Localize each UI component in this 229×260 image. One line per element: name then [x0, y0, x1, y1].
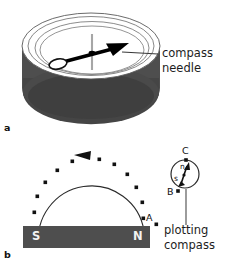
magnet-north-pole-label: N	[133, 230, 143, 243]
plotting-compass-label-line1: plotting	[164, 224, 208, 237]
plotting-compass-north-letter: n	[180, 163, 185, 171]
point-a-label: A	[146, 213, 153, 223]
text-layer: compass needle a b S N A B C n s plottin…	[0, 0, 229, 260]
point-c-label: C	[182, 146, 189, 156]
plotting-compass-south-letter: s	[174, 175, 178, 183]
plotting-compass-label-line2: compass	[164, 239, 215, 252]
compass-needle-annotation-line2: needle	[162, 62, 201, 75]
panel-b-identifier: b	[4, 249, 11, 260]
point-b-label: B	[167, 187, 174, 197]
magnet-south-pole-label: S	[32, 230, 40, 243]
compass-needle-annotation-line1: compass	[162, 47, 213, 60]
panel-a-identifier: a	[4, 122, 10, 133]
